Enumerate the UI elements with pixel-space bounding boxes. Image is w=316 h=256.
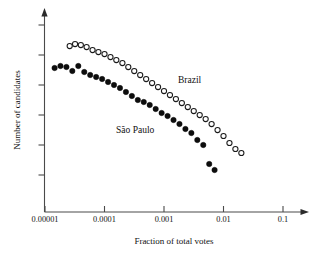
data-point [161, 88, 166, 93]
data-point [135, 97, 140, 102]
x-axis-title: Fraction of total votes [134, 236, 214, 246]
data-point [239, 150, 244, 155]
data-point [201, 142, 206, 147]
data-point [105, 79, 110, 84]
data-point [150, 80, 155, 85]
x-axis-tick-label: 0.00001 [32, 215, 59, 224]
data-point [126, 64, 131, 69]
data-point [82, 69, 87, 74]
data-point [179, 100, 184, 105]
data-point [147, 102, 152, 107]
data-point [227, 140, 232, 145]
chart-figure: 0.000010.00010.0010.010.1 Brazil São Pau… [0, 0, 316, 256]
data-point [108, 54, 113, 59]
data-point [111, 82, 116, 87]
data-point [191, 108, 196, 113]
data-point [84, 44, 89, 49]
data-point [72, 41, 77, 46]
data-point [120, 60, 125, 65]
data-point [207, 161, 212, 166]
data-point [78, 42, 83, 47]
data-point [76, 63, 81, 68]
x-axis-tick-labels: 0.000010.00010.0010.010.1 [32, 215, 289, 224]
data-point [129, 93, 134, 98]
data-point [70, 68, 75, 73]
series-label-sao-paulo: São Paulo [116, 125, 155, 135]
data-point [144, 76, 149, 81]
data-point [177, 121, 182, 126]
data-point [159, 110, 164, 115]
data-point [141, 99, 146, 104]
data-point [117, 85, 122, 90]
x-axis-tick-label: 0.0001 [93, 215, 116, 224]
x-axis-tick-label: 0.01 [216, 215, 231, 224]
data-point [173, 96, 178, 101]
data-point [171, 117, 176, 122]
data-point [52, 65, 57, 70]
data-point [215, 127, 220, 132]
data-point [138, 72, 143, 77]
series-brazil-points [67, 41, 244, 155]
data-point [90, 47, 95, 52]
y-axis [39, 8, 48, 212]
data-point [102, 51, 107, 56]
data-point [155, 84, 160, 89]
x-axis: 0.000010.00010.0010.010.1 [32, 206, 309, 224]
scatter-plot: 0.000010.00010.0010.010.1 Brazil São Pau… [0, 0, 316, 256]
y-axis-title: Number of candidates [12, 70, 22, 150]
x-axis-arrowhead [301, 209, 310, 215]
data-point [64, 64, 69, 69]
data-point [189, 130, 194, 135]
data-point [165, 113, 170, 118]
x-axis-tick-label: 0.001 [155, 215, 174, 224]
y-axis-ticks [39, 25, 45, 175]
data-point [167, 92, 172, 97]
x-axis-ticks [45, 206, 283, 212]
series-label-brazil: Brazil [178, 75, 202, 85]
data-point [197, 112, 202, 117]
data-point [67, 43, 72, 48]
data-point [185, 104, 190, 109]
data-point [114, 57, 119, 62]
data-point [221, 133, 226, 138]
x-axis-tick-label: 0.1 [278, 215, 288, 224]
data-point [99, 76, 104, 81]
data-point [203, 116, 208, 121]
data-point [195, 137, 200, 142]
data-point [233, 146, 238, 151]
data-point [132, 68, 137, 73]
data-point [183, 126, 188, 131]
data-point [209, 121, 214, 126]
data-point [212, 167, 217, 172]
y-axis-arrowhead [41, 8, 47, 17]
data-point [58, 63, 63, 68]
data-point [96, 49, 101, 54]
data-point [153, 106, 158, 111]
data-point [93, 74, 98, 79]
data-point [123, 89, 128, 94]
data-point [88, 72, 93, 77]
